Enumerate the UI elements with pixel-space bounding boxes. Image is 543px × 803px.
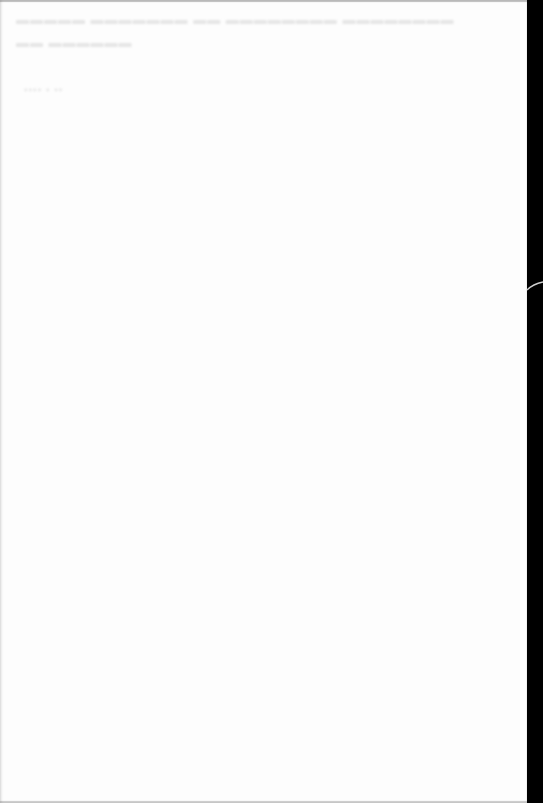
show-through-text-line-2: ▬▬ ▬▬▬▬▬▬	[16, 35, 216, 50]
show-through-text-line-1: ▬▬▬▬▬ ▬▬▬▬▬▬▬ ▬▬ ▬▬▬▬▬▬▬▬ ▬▬▬▬▬▬▬▬	[16, 12, 516, 27]
scanner-black-border	[527, 0, 543, 803]
show-through-text-line-3: ▪▪▪▪ ▪ ▪▪	[24, 84, 63, 95]
paper-curl-mark	[521, 270, 543, 300]
paper-sheet: ▬▬▬▬▬ ▬▬▬▬▬▬▬ ▬▬ ▬▬▬▬▬▬▬▬ ▬▬▬▬▬▬▬▬ ▬▬ ▬▬…	[0, 0, 527, 803]
